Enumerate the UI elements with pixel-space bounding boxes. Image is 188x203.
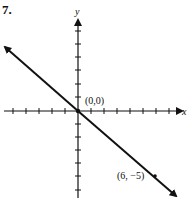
point-label: (6, −5) [117, 170, 144, 182]
graph-line [78, 111, 176, 196]
origin-label: (0,0) [85, 95, 104, 107]
y-axis-label: y [74, 6, 80, 17]
point-6-neg5 [153, 174, 157, 178]
origin-point [76, 109, 80, 113]
graph-line-upper [5, 47, 78, 111]
x-axis-label: x [181, 106, 187, 117]
coordinate-plane: y x (0,0) (6, −5) [0, 0, 188, 203]
